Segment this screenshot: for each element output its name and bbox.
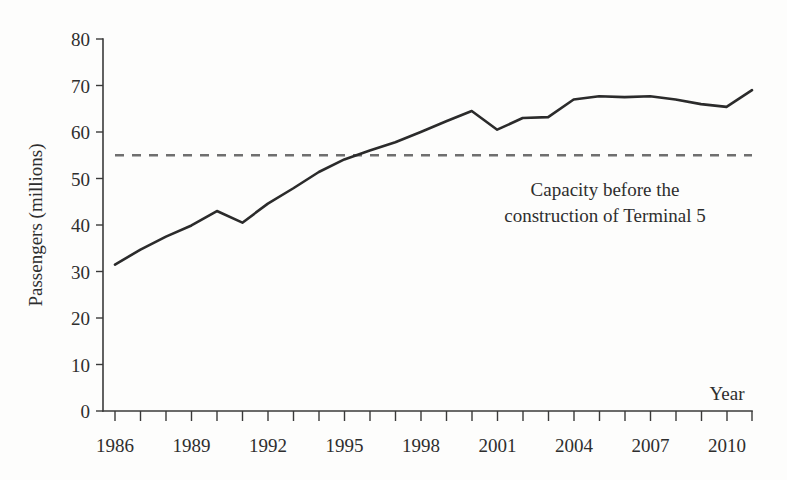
y-tick-label: 80	[71, 29, 90, 50]
x-tick-label: 1989	[173, 435, 211, 456]
capacity-annotation-line1: Capacity before the	[531, 179, 680, 200]
y-tick-label: 0	[81, 401, 91, 422]
y-tick-label: 40	[71, 215, 90, 236]
x-tick-label: 1998	[402, 435, 440, 456]
y-tick-label: 70	[71, 76, 90, 97]
x-tick-label: 2001	[479, 435, 517, 456]
y-axis-title: Passengers (millions)	[25, 143, 47, 306]
x-tick-label: 2010	[708, 435, 746, 456]
passenger-traffic-line-chart: 0 10 20 30 40 50 60 70 80	[0, 0, 787, 480]
x-tick-label: 1992	[249, 435, 287, 456]
y-axis-tick-labels: 0 10 20 30 40 50 60 70 80	[71, 29, 90, 422]
y-tick-label: 10	[71, 355, 90, 376]
y-tick-label: 30	[71, 262, 90, 283]
y-tick-label: 60	[71, 122, 90, 143]
capacity-annotation-line2: construction of Terminal 5	[504, 205, 705, 226]
x-tick-label: 2007	[632, 435, 670, 456]
x-axis-tick-labels: 1986 1989 1992 1995 1998 2001 2004 2007 …	[96, 435, 746, 456]
chart-figure: 0 10 20 30 40 50 60 70 80	[0, 0, 787, 480]
x-tick-label: 1995	[326, 435, 364, 456]
y-tick-label: 50	[71, 169, 90, 190]
x-tick-label: 1986	[96, 435, 134, 456]
x-tick-label: 2004	[555, 435, 594, 456]
x-axis-title: Year	[709, 383, 745, 404]
y-tick-label: 20	[71, 308, 90, 329]
chart-background	[0, 0, 787, 480]
